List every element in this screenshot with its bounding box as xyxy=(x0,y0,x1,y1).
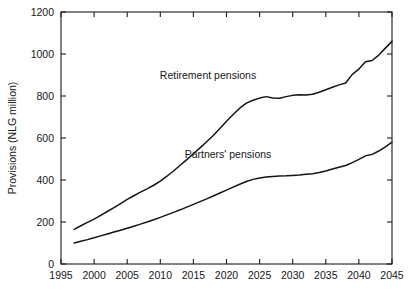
x-tick-label: 2045 xyxy=(380,269,404,281)
top-axis-ticks xyxy=(61,12,392,17)
plot-frame xyxy=(61,12,392,264)
y-tick-label: 600 xyxy=(36,132,54,144)
right-axis-ticks xyxy=(387,12,392,264)
y-tick-label: 0 xyxy=(48,258,54,270)
x-tick-label: 2025 xyxy=(248,269,272,281)
line-chart: 1995200020052010201520202025203020352040… xyxy=(0,0,414,298)
x-tick-label: 2040 xyxy=(347,269,371,281)
chart-container: 1995200020052010201520202025203020352040… xyxy=(0,0,414,298)
x-tick-label: 2030 xyxy=(281,269,305,281)
x-axis-tick-labels: 1995200020052010201520202025203020352040… xyxy=(49,269,404,281)
x-tick-label: 1995 xyxy=(49,269,73,281)
y-tick-label: 1000 xyxy=(31,48,55,60)
x-tick-label: 2035 xyxy=(314,269,338,281)
y-tick-label: 200 xyxy=(36,216,54,228)
x-axis-ticks xyxy=(61,259,392,264)
series-annotations: Retirement pensionsPartners' pensions xyxy=(160,69,271,160)
y-tick-label: 400 xyxy=(36,174,54,186)
x-tick-label: 2015 xyxy=(182,269,206,281)
y-tick-label: 800 xyxy=(36,90,54,102)
x-tick-label: 2010 xyxy=(149,269,173,281)
x-tick-label: 2005 xyxy=(116,269,140,281)
y-axis-title: Provisions (NLG million) xyxy=(6,82,18,195)
series-annotation-label: Retirement pensions xyxy=(160,69,256,81)
x-tick-label: 2000 xyxy=(82,269,106,281)
series-annotation-label: Partners' pensions xyxy=(185,148,272,160)
y-axis-ticks xyxy=(61,12,66,264)
x-tick-label: 2020 xyxy=(215,269,239,281)
y-axis-tick-labels: 020040060080010001200 xyxy=(31,6,55,270)
y-tick-label: 1200 xyxy=(31,6,55,18)
